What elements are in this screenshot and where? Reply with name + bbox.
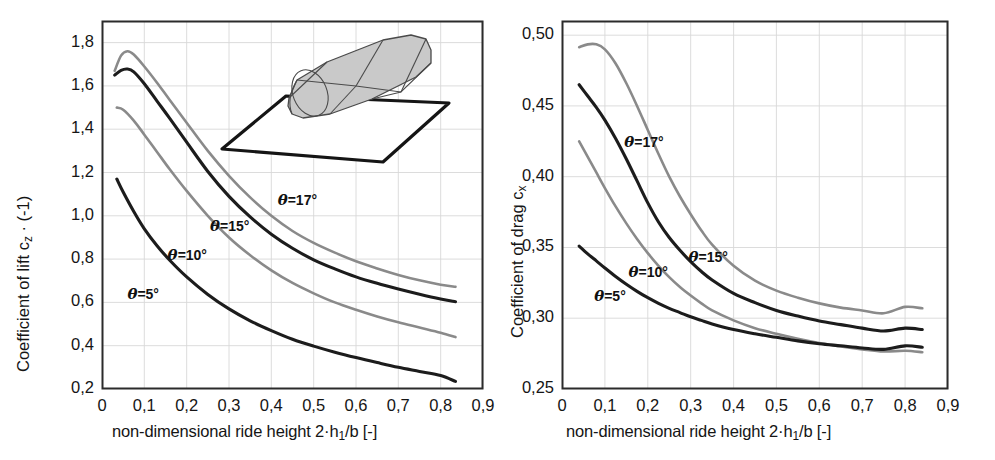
drag-curve-label-17deg: θ=17° [624, 133, 663, 151]
theta-symbol: θ [624, 133, 634, 151]
curve-label-text: =10° [178, 247, 207, 263]
lift-y-title-text: Coefficient of lift c [14, 242, 32, 372]
theta-symbol: θ [278, 191, 288, 209]
drag-curve-label-10deg: θ=10° [628, 263, 667, 281]
lift-x-title-text: non-dimensional ride height 2·h [112, 422, 339, 440]
lift-y-tick-label: 0,8 [36, 248, 94, 267]
lift-x-axis-title: non-dimensional ride height 2·h1/b [-] [112, 422, 377, 443]
drag-y-tick-label: 0,50 [496, 24, 554, 43]
curve-label-text: =15° [699, 249, 728, 265]
theta-symbol: θ [168, 246, 178, 264]
drag-y-tick-label: 0,30 [496, 307, 554, 326]
theta-symbol: θ [594, 287, 604, 305]
lift-x-title-post: /b [-] [345, 422, 377, 440]
drag-x-title-post: /b [-] [799, 422, 831, 440]
drag-y-tick-label: 0,35 [496, 236, 554, 255]
lift-y-tick-label: 0,2 [36, 378, 94, 397]
lift-curve-label-10deg: θ=10° [168, 246, 207, 264]
drag-x-tick-label: 0,9 [923, 396, 973, 415]
drag-curve-10deg [579, 141, 922, 352]
lift-y-tick-label: 1,8 [36, 32, 94, 51]
drag-y-title-sub: x [515, 186, 529, 192]
curve-label-text: =5° [137, 286, 159, 302]
lift-y-title-sub: z [21, 236, 35, 242]
lift-y-tick-label: 0,4 [36, 335, 94, 354]
theta-symbol: θ [210, 217, 220, 235]
lift-y-tick-label: 1,4 [36, 118, 94, 137]
figure-aerodynamic-coefficients: Coefficient of lift cz · (-1) non-dimens… [0, 0, 995, 460]
panel-coefficient-of-drag: Coefficient of drag cx non-dimensional r… [498, 0, 995, 460]
drag-curve-15deg [579, 85, 922, 331]
theta-symbol: θ [689, 248, 699, 266]
drag-y-tick-label: 0,25 [496, 378, 554, 397]
curve-label-text: =17° [634, 134, 663, 150]
drag-curves [579, 44, 922, 352]
panel-coefficient-of-lift: Coefficient of lift cz · (-1) non-dimens… [0, 0, 497, 460]
drag-curve-label-5deg: θ=5° [594, 287, 626, 305]
curve-label-text: =5° [604, 288, 626, 304]
drag-curve-label-15deg: θ=15° [689, 248, 728, 266]
drag-y-tick-label: 0,45 [496, 95, 554, 114]
drag-x-title-text: non-dimensional ride height 2·h [566, 422, 793, 440]
lift-y-title-post: · (-1) [14, 196, 32, 236]
drag-plot-canvas [498, 0, 995, 460]
lift-y-tick-label: 0,6 [36, 291, 94, 310]
curve-label-text: =15° [220, 218, 249, 234]
lift-curve-label-17deg: θ=17° [278, 191, 317, 209]
inset-vehicle-body-over-ground-plane [222, 35, 449, 162]
curve-label-text: =10° [638, 264, 667, 280]
lift-curve-17deg [115, 51, 456, 287]
lift-y-tick-label: 1,2 [36, 162, 94, 181]
lift-y-tick-label: 1,0 [36, 205, 94, 224]
drag-y-tick-label: 0,40 [496, 166, 554, 185]
lift-y-tick-label: 1,6 [36, 75, 94, 94]
drag-x-axis-title: non-dimensional ride height 2·h1/b [-] [566, 422, 831, 443]
lift-y-axis-title: Coefficient of lift cz · (-1) [14, 196, 35, 372]
theta-symbol: θ [127, 285, 137, 303]
theta-symbol: θ [628, 263, 638, 281]
lift-curve-label-15deg: θ=15° [210, 217, 249, 235]
curve-label-text: =17° [288, 192, 317, 208]
lift-curve-label-5deg: θ=5° [127, 285, 159, 303]
